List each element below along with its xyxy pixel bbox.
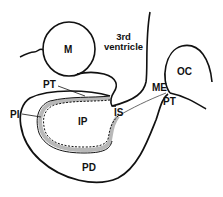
- label-pd: PD: [82, 163, 96, 173]
- diagram-drawing: [0, 0, 223, 197]
- label-pt-upper: PT: [43, 80, 56, 90]
- label-pi: PI: [10, 110, 19, 120]
- label-oc: OC: [177, 67, 192, 77]
- label-pt-right: PT: [163, 97, 176, 107]
- label-third-ventricle-line2: ventricle: [104, 42, 143, 52]
- label-m: M: [64, 45, 72, 55]
- label-is: IS: [114, 108, 123, 118]
- third-ventricle-wall: [112, 12, 150, 106]
- label-me: ME: [152, 83, 167, 93]
- label-ip: IP: [78, 117, 87, 127]
- left-boundary-line: [20, 49, 43, 57]
- label-third-ventricle: 3rd ventricle: [104, 32, 143, 52]
